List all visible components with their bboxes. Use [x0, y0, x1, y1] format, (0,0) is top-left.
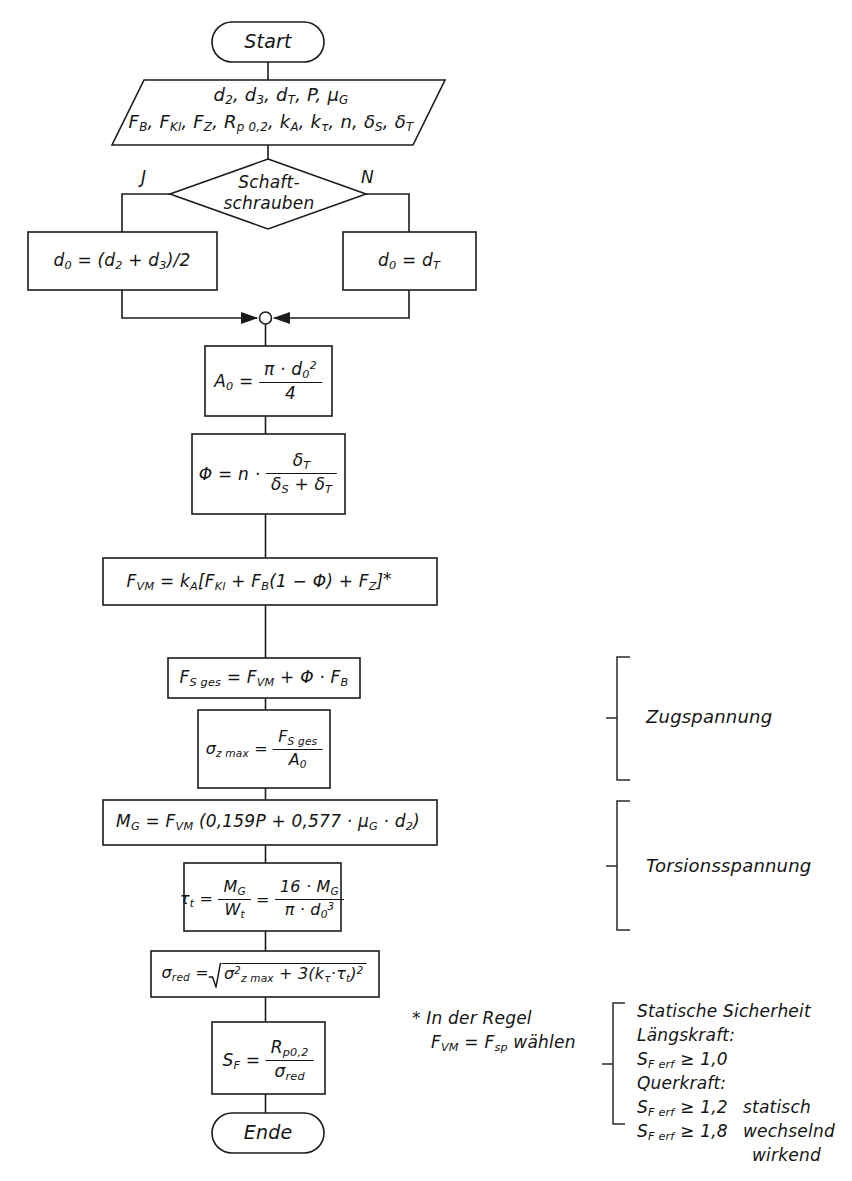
area-formula: A0 = π · d024 [214, 361, 322, 404]
bracket-torsion-label: Torsionsspannung [646, 856, 811, 876]
bracket-safety-shape [613, 1003, 625, 1124]
sf-formula: SF = Rp0,2σred [222, 1039, 313, 1085]
connector-no-to-merge [274, 290, 409, 318]
footnote-line-1: * In der Regel [412, 1006, 532, 1031]
decision-label-line-2: schrauben [224, 193, 315, 213]
bracket-tension-shape [617, 657, 630, 780]
fsges-formula: FS ges = FVM + Φ · FB [180, 668, 349, 689]
safety-line-2: Längskraft: [637, 1023, 735, 1048]
safety-line-6: SF erf ≥ 1,8 [637, 1119, 728, 1145]
connector-decision-no [366, 194, 409, 232]
sigma-z-formula: σz max = FS gesA0 [206, 729, 323, 771]
merge-junction-node [260, 312, 272, 324]
safety-line-3: SF erf ≥ 1,0 [637, 1047, 728, 1073]
fvm-formula: FVM = kA[FKl + FB(1 − Φ) + FZ] [127, 572, 384, 593]
decision-label-line-1: Schaft- [238, 172, 300, 192]
merge-arrow-left [241, 312, 258, 324]
safety-line-1: Statische Sicherheit [637, 999, 811, 1024]
safety-line-5: SF erf ≥ 1,2 [637, 1095, 728, 1121]
tau-formula: τt = MGWt = 16 · MGπ · d03 [180, 879, 344, 921]
phi-formula: Φ = n · δTδS + δT [199, 452, 337, 498]
end-terminator-label: Ende [244, 1122, 293, 1143]
bracket-tension-label: Zugspannung [646, 707, 772, 727]
flowchart-canvas: Start d2, d3, dT, P, µG FB, FKl, FZ, Rp … [0, 0, 852, 1181]
input-line-1: d2, d3, dT, P, µG [214, 85, 349, 107]
footnote-line-2: FVM = Fsp wählen [431, 1030, 576, 1056]
bracket-torsion-shape [617, 801, 630, 930]
radical-tick-icon [209, 962, 222, 988]
merge-arrow-right [273, 312, 290, 324]
safety-line-4: Querkraft: [637, 1071, 726, 1096]
sigma-red-formula: σred = σ2z max + 3(kτ·τt)2 [162, 962, 367, 985]
safety-line-5b: statisch [743, 1095, 811, 1120]
mg-formula: MG = FVM (0,159P + 0,577 · µG · d2) [116, 812, 420, 833]
d0-yes-formula: d0 = (d2 + d3)/2 [54, 251, 191, 272]
input-line-2: FB, FKl, FZ, Rp 0,2, kA, kτ, n, δS, δT [129, 112, 414, 134]
connector-yes-to-merge [122, 290, 257, 318]
decision-yes-label: J [141, 168, 146, 187]
safety-line-7: wirkend [752, 1143, 821, 1168]
fvm-footnote-marker: * [383, 570, 392, 589]
start-terminator-label: Start [244, 31, 291, 52]
connector-decision-yes [122, 194, 170, 232]
d0-no-formula: d0 = dT [378, 251, 440, 272]
safety-line-6b: wechselnd [743, 1119, 835, 1144]
decision-no-label: N [361, 168, 374, 187]
